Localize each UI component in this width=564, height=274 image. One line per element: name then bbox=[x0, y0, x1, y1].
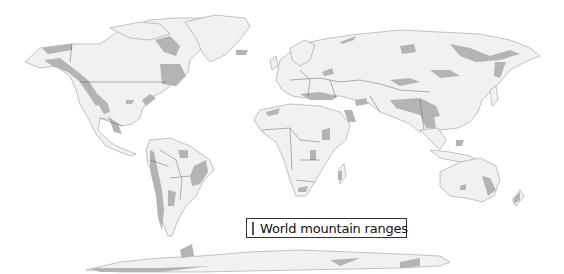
map-legend: World mountain ranges bbox=[246, 218, 407, 238]
oceania bbox=[440, 158, 524, 206]
legend-label: World mountain ranges bbox=[260, 221, 408, 236]
mountain-range-swatch bbox=[252, 222, 254, 235]
africa bbox=[254, 104, 350, 196]
north-america bbox=[25, 15, 250, 156]
south-america bbox=[146, 138, 214, 236]
antarctica bbox=[86, 244, 450, 272]
